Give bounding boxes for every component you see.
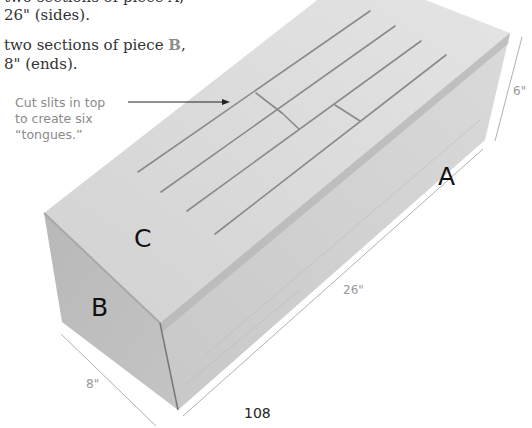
box-illustration (0, 0, 532, 428)
dimension-6in: 6" (513, 84, 526, 98)
label-a: A (438, 162, 455, 191)
page-number: 108 (244, 405, 271, 421)
callout-text: Cut slits in top to create six “tongues.… (15, 95, 105, 143)
label-b: B (91, 293, 108, 322)
callout-line-1: Cut slits in top (15, 95, 105, 111)
dimension-26in: 26" (343, 283, 364, 297)
callout-line-3: “tongues.” (15, 127, 105, 143)
dimension-8in: 8" (86, 377, 99, 391)
label-c: C (134, 224, 151, 253)
callout-line-2: to create six (15, 111, 105, 127)
